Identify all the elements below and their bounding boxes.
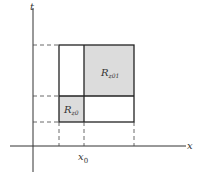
x-axis-label: x: [187, 140, 193, 151]
t-axis-label: t: [30, 1, 35, 12]
diagram-canvas: t x x0 Rz01 Rz0: [0, 0, 197, 178]
x0-tick-label: x0: [78, 151, 88, 165]
region-r-z01: [84, 45, 134, 96]
